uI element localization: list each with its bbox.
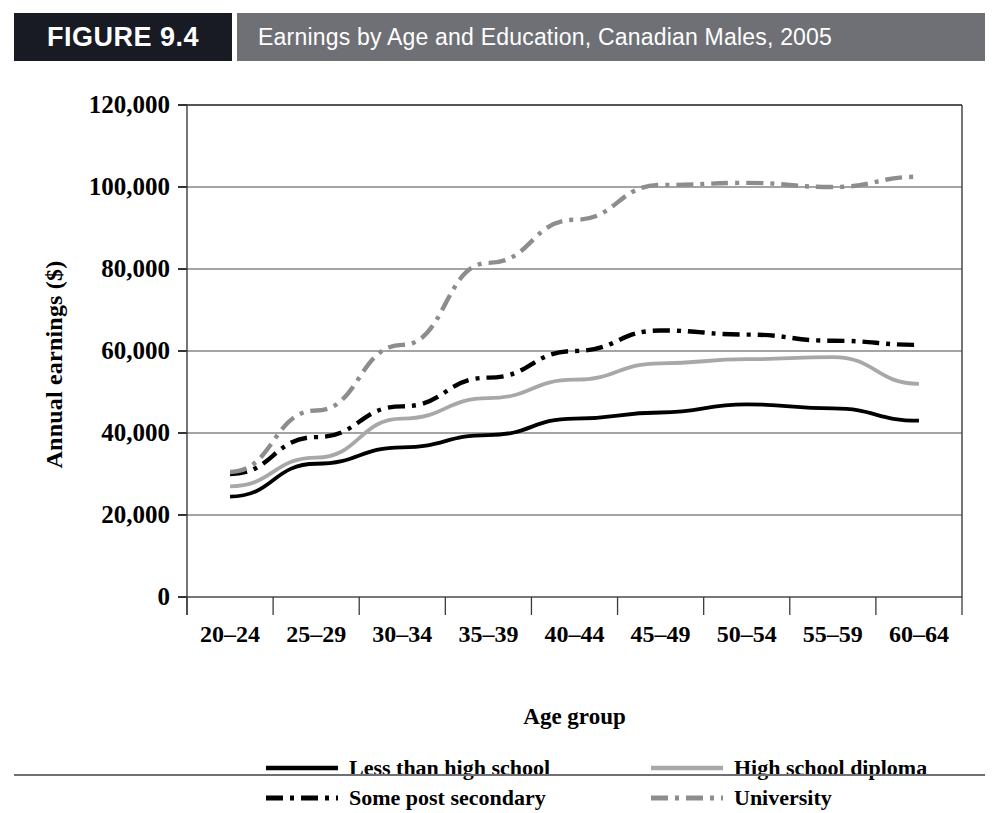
legend-label: Some post secondary [349,785,546,811]
series-line [230,357,919,486]
x-axis-tick-label: 20–24 [200,621,260,647]
legend-label: High school diploma [734,755,927,781]
legend-label: Less than high school [349,755,550,781]
figure-header: FIGURE 9.4 Earnings by Age and Education… [14,13,985,61]
figure-title-block: Earnings by Age and Education, Canadian … [237,13,985,61]
y-axis-tick-label: 60,000 [101,337,170,364]
x-axis-tick-labels: 20–2425–2930–3435–3940–4445–4950–5455–59… [200,621,949,647]
x-axis-tick-label: 55–59 [803,621,863,647]
data-series [230,177,919,497]
y-axis-tick-label: 20,000 [101,501,170,528]
x-axis-tick-label: 50–54 [717,621,777,647]
line-chart: 020,00040,00060,00080,000100,000120,000 … [0,61,999,681]
legend-item: High school diploma [651,755,966,781]
bottom-divider [14,774,985,776]
legend-line-swatch [266,790,338,806]
x-axis-tick-label: 45–49 [631,621,691,647]
legend-item: Some post secondary [266,785,651,811]
y-axis-tick-label: 0 [158,583,171,610]
x-axis-ticks [187,597,962,615]
chart-area: 020,00040,00060,00080,000100,000120,000 … [0,61,999,681]
legend-line-swatch [651,790,723,806]
figure-title-label: Earnings by Age and Education, Canadian … [258,24,832,51]
y-axis-tick-label: 40,000 [101,419,170,446]
x-axis-tick-label: 60–64 [889,621,949,647]
x-axis-tick-label: 40–44 [545,621,605,647]
x-axis-tick-label: 30–34 [372,621,432,647]
y-axis-title: Annual earnings ($) [41,245,68,485]
series-line [230,404,919,496]
legend-item: Less than high school [266,755,651,781]
legend-item: University [651,785,966,811]
chart-legend: Less than high schoolHigh school diploma… [266,753,966,813]
figure-number-block: FIGURE 9.4 [14,13,232,61]
x-axis-tick-label: 25–29 [286,621,346,647]
y-axis-tick-label: 100,000 [89,173,170,200]
series-line [230,331,919,475]
figure-number-label: FIGURE 9.4 [47,22,199,53]
x-axis-tick-label: 35–39 [458,621,518,647]
y-axis-tick-label: 80,000 [101,255,170,282]
legend-label: University [734,785,832,811]
y-axis-tick-labels: 020,00040,00060,00080,000100,000120,000 [89,91,170,610]
x-axis-title: Age group [187,704,962,730]
series-line [230,177,919,472]
y-axis-tick-label: 120,000 [89,91,170,118]
gridlines [178,105,962,597]
